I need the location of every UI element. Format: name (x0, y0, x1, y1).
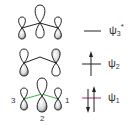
mo-diagram: 3 1 2 ψ3* ψ2 ψ1 (0, 0, 136, 126)
label-psi2: ψ2 (108, 57, 120, 70)
orbital-psi2 (20, 49, 60, 76)
atom-label-2: 2 (40, 114, 45, 123)
atom-label-1: 1 (65, 96, 70, 105)
arrow-down-icon (86, 107, 90, 113)
orbital-psi3 (19, 5, 62, 39)
level-psi2 (82, 51, 101, 76)
label-psi1: ψ1 (108, 91, 120, 104)
level-psi1 (82, 86, 101, 113)
orbital-psi1 (21, 78, 62, 112)
arrow-up-icon (92, 86, 96, 92)
arrow-up-icon (89, 51, 93, 57)
atom-label-3: 3 (11, 96, 16, 105)
label-psi3: ψ3* (109, 22, 124, 37)
